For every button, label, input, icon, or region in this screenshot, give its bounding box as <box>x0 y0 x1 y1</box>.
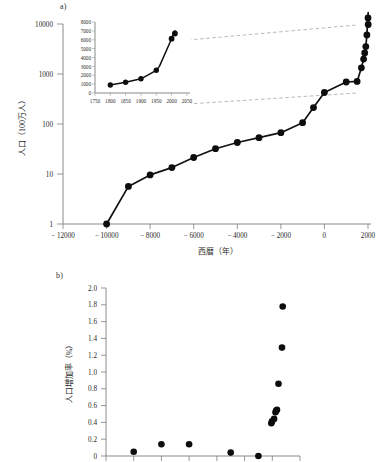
data-point <box>279 303 286 310</box>
panel-b-ytick-2.0: 2.0 <box>88 285 97 293</box>
panel-a-xlabel: 西暦（年） <box>198 246 238 256</box>
inset-xtick-1900: 1900 <box>136 98 147 104</box>
panel-b-series-growth-rate <box>130 303 286 459</box>
connector-top <box>188 25 357 40</box>
data-point <box>365 15 372 22</box>
panel-b-ytick-0: 0 <box>93 453 97 461</box>
panel-b-y-ticks: 2.0 1.8 1.6 1.4 1.2 1.0 0.8 0.6 0.4 0.2 … <box>88 285 106 461</box>
panel-a-xtick-2: − 8000 <box>140 232 161 240</box>
data-point <box>278 129 285 136</box>
data-point <box>172 31 178 37</box>
data-point <box>256 134 263 141</box>
inset-ytick-0: 0 <box>88 90 91 96</box>
data-point <box>360 56 367 63</box>
panel-a-xtick-6: 0 <box>323 232 327 240</box>
inset-ytick-2000: 2000 <box>81 72 92 78</box>
data-point <box>147 172 154 179</box>
data-point <box>364 32 371 39</box>
panel-b-ytick-1.2: 1.2 <box>88 352 97 360</box>
panel-a-x-ticks: − 12000 − 10000 − 8000 − 6000 − 4000 − 2… <box>51 224 376 240</box>
panel-b-ylabel: 人口増加率（%） <box>64 341 74 404</box>
inset-ytick-1000: 1000 <box>81 81 92 87</box>
data-point <box>279 344 286 351</box>
data-point <box>108 82 113 87</box>
data-point <box>158 441 165 448</box>
data-point <box>310 104 317 111</box>
inset-ytick-3000: 3000 <box>81 64 92 70</box>
panel-a-xtick-1: − 10000 <box>95 232 119 240</box>
data-point <box>125 183 132 190</box>
panel-a-xtick-5: − 2000 <box>271 232 292 240</box>
data-point <box>362 43 369 50</box>
inset-xtick-1800: 1800 <box>105 98 116 104</box>
panel-a-xtick-7: 2000 <box>361 232 376 240</box>
panel-a-inset: 8000 7000 6000 5000 4000 3000 2000 1000 … <box>76 18 192 108</box>
data-point <box>103 221 110 228</box>
data-point <box>274 407 281 414</box>
inset-xtick-1950: 1950 <box>151 98 162 104</box>
panel-a-world-population: a) 10000 1000 100 10 1 <box>0 0 379 260</box>
data-point <box>154 68 159 73</box>
data-point <box>123 80 128 85</box>
panel-a-y-ticks: 10000 1000 100 10 1 <box>35 21 63 229</box>
data-point <box>358 64 365 71</box>
panel-a-ytick-100: 100 <box>42 121 53 129</box>
panel-a-xtick-3: − 6000 <box>184 232 205 240</box>
inset-xtick-2000: 2000 <box>166 98 177 104</box>
inset-ytick-5000: 5000 <box>81 46 92 52</box>
data-point <box>227 449 234 456</box>
panel-b-ytick-0.4: 0.4 <box>88 419 97 427</box>
panel-b-ytick-1.6: 1.6 <box>88 318 97 326</box>
panel-a-ytick-10: 10 <box>46 171 54 179</box>
panel-a-ylabel: 人口（100万人） <box>18 96 27 156</box>
panel-b-ytick-0.6: 0.6 <box>88 402 97 410</box>
inset-ytick-6000: 6000 <box>81 37 92 43</box>
panel-b-svg: 2.0 1.8 1.6 1.4 1.2 1.0 0.8 0.6 0.4 0.2 … <box>0 260 379 462</box>
panel-a-ytick-1: 1 <box>49 221 53 229</box>
panel-b-axes <box>106 288 300 456</box>
data-point <box>271 416 278 423</box>
connector-bottom <box>188 93 357 104</box>
panel-b-label: b) <box>56 271 63 280</box>
inset-xtick-1750: 1750 <box>90 98 101 104</box>
data-point <box>169 164 176 171</box>
panel-b-ytick-1.4: 1.4 <box>88 335 97 343</box>
inset-ytick-8000: 8000 <box>81 19 92 25</box>
inset-ytick-7000: 7000 <box>81 28 92 34</box>
panel-b-x-ticks <box>106 456 300 461</box>
panel-a-xtick-0: − 12000 <box>51 232 75 240</box>
data-point <box>255 453 262 460</box>
data-point <box>275 381 282 388</box>
data-point <box>354 78 361 85</box>
panel-a-label: a) <box>60 2 67 11</box>
panel-b-ytick-1.8: 1.8 <box>88 301 97 309</box>
data-point <box>212 145 219 152</box>
data-point <box>361 50 368 57</box>
inset-xtick-2050: 2050 <box>182 98 193 104</box>
inset-xtick-1850: 1850 <box>120 98 131 104</box>
panel-b-ytick-0.8: 0.8 <box>88 385 97 393</box>
panel-a-connector-lines <box>188 25 357 104</box>
data-point <box>138 76 143 81</box>
data-point <box>130 449 137 456</box>
panel-a-svg: 10000 1000 100 10 1 − 12000 − 10000 − 80… <box>0 0 379 260</box>
data-point <box>343 79 350 86</box>
data-point <box>321 89 328 96</box>
panel-a-ytick-1000: 1000 <box>39 71 54 79</box>
data-point <box>299 119 306 126</box>
panel-a-xtick-4: − 4000 <box>227 232 248 240</box>
data-point <box>234 139 241 146</box>
panel-b-ytick-1.0: 1.0 <box>88 369 97 377</box>
population-figure: a) 10000 1000 100 10 1 <box>0 0 379 462</box>
panel-b-growth-rate: b) 2.0 1.8 1.6 <box>0 260 379 462</box>
data-point <box>190 154 197 161</box>
data-point <box>186 441 193 448</box>
data-point <box>169 36 175 42</box>
inset-ytick-4000: 4000 <box>81 55 92 61</box>
data-point <box>365 21 372 28</box>
panel-a-ytick-10000: 10000 <box>35 21 53 29</box>
panel-b-ytick-0.2: 0.2 <box>88 436 97 444</box>
